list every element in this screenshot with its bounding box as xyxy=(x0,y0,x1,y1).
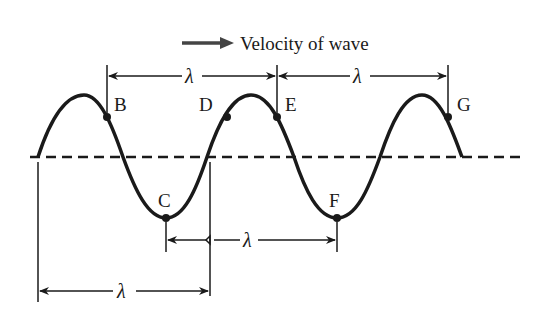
point-d xyxy=(223,113,231,121)
label-f: F xyxy=(329,190,340,211)
label-g: G xyxy=(457,94,471,115)
label-d: D xyxy=(199,94,213,115)
point-c xyxy=(162,214,170,222)
point-f xyxy=(333,214,341,222)
label-b: B xyxy=(114,94,127,115)
wave-diagram: Velocity of wave B C D E F G λ λ λ xyxy=(0,0,544,313)
velocity-arrow-icon xyxy=(182,37,234,49)
lambda-start-crossing: λ xyxy=(116,280,126,302)
velocity-label: Velocity of wave xyxy=(240,33,369,54)
point-b xyxy=(103,113,111,121)
point-g xyxy=(444,113,452,121)
lambda-b-e: λ xyxy=(184,65,194,87)
point-e xyxy=(273,113,281,121)
label-c: C xyxy=(158,190,171,211)
dimension-e-g xyxy=(279,65,448,113)
lambda-c-f: λ xyxy=(242,229,252,251)
lambda-e-g: λ xyxy=(352,65,362,87)
label-e: E xyxy=(285,94,297,115)
